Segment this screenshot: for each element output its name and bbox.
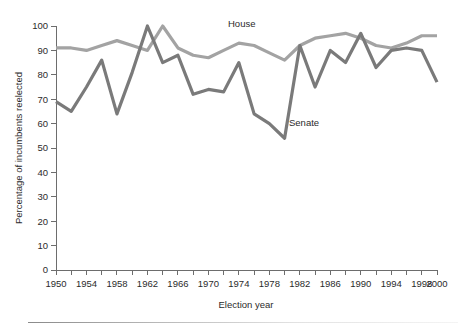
y-axis-tick-label-group: 0102030405060708090100 [32,20,48,275]
y-tick-label: 90 [37,45,48,56]
y-tick-label: 60 [37,118,48,129]
x-axis-title: Election year [219,299,274,310]
y-axis-title: Percentage of incumbents reelected [13,72,24,224]
x-tick-label: 1966 [167,278,188,289]
y-tick-label: 80 [37,69,48,80]
x-tick-label: 2000 [426,278,447,289]
x-tick-label: 1978 [259,278,280,289]
y-tick-label: 0 [43,264,48,275]
x-tick-label: 1986 [320,278,341,289]
y-tick-label: 30 [37,191,48,202]
x-tick-label: 1974 [228,278,249,289]
y-axis-tick-mark-group [51,26,56,270]
y-tick-label: 20 [37,216,48,227]
x-tick-label: 1970 [198,278,219,289]
x-tick-label: 1994 [381,278,402,289]
incumbent-reelection-line-chart: 0102030405060708090100 19501954195819621… [0,0,466,331]
x-tick-label: 1982 [289,278,310,289]
x-tick-label: 1954 [76,278,97,289]
series-annotation-house: House [228,18,255,29]
data-series-group [56,26,437,138]
x-tick-label: 1958 [106,278,127,289]
series-annotation-senate: Senate [289,117,319,128]
chart-figure: 0102030405060708090100 19501954195819621… [0,0,466,331]
y-tick-label: 50 [37,142,48,153]
y-tick-label: 40 [37,167,48,178]
x-tick-label: 1962 [137,278,158,289]
y-tick-label: 100 [32,20,48,31]
x-tick-label: 1990 [350,278,371,289]
x-tick-label: 1950 [45,278,66,289]
series-line-house [56,26,437,60]
footer-rule [28,322,458,323]
y-tick-label: 10 [37,240,48,251]
x-axis-tick-label-group: 1950195419581962196619701974197819821986… [45,278,447,289]
x-axis-tick-mark-group [56,270,437,275]
y-tick-label: 70 [37,94,48,105]
